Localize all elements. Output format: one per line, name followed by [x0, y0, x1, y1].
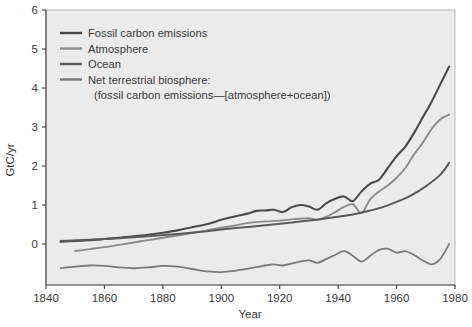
y-tick-label: 4	[32, 82, 39, 94]
x-axis-label: Year	[238, 308, 261, 320]
x-tick-label: 1860	[92, 292, 118, 304]
x-tick-label: 1900	[208, 292, 234, 304]
line-chart: 18401860188019001920194019601980 0123456…	[0, 0, 472, 327]
x-tick-label: 1940	[325, 292, 351, 304]
chart-figure: 18401860188019001920194019601980 0123456…	[0, 0, 472, 327]
y-tick-label: 1	[32, 199, 38, 211]
y-axis-label: GtC/yr	[4, 143, 16, 176]
y-tick-label: 2	[32, 160, 38, 172]
legend-label: Ocean	[88, 58, 121, 70]
x-tick-label: 1920	[267, 292, 293, 304]
x-tick-label: 1880	[150, 292, 176, 304]
y-tick-label: 3	[32, 121, 38, 133]
legend-label: Net terrestrial biosphere:	[88, 74, 211, 86]
x-tick-label: 1980	[442, 292, 468, 304]
x-tick-label: 1960	[384, 292, 410, 304]
x-tick-label: 1840	[33, 292, 59, 304]
legend-label: Atmosphere	[88, 43, 148, 55]
legend-label: Fossil carbon emissions	[88, 27, 208, 39]
y-tick-label: 0	[32, 238, 38, 250]
x-axis-tick-labels: 18401860188019001920194019601980	[33, 292, 468, 304]
legend-sublabel: (fossil carbon emissions—[atmosphere+oce…	[94, 89, 331, 101]
y-tick-label: 6	[32, 4, 38, 16]
y-tick-label: 5	[32, 43, 38, 55]
y-axis-tick-labels: 0123456	[32, 4, 39, 250]
